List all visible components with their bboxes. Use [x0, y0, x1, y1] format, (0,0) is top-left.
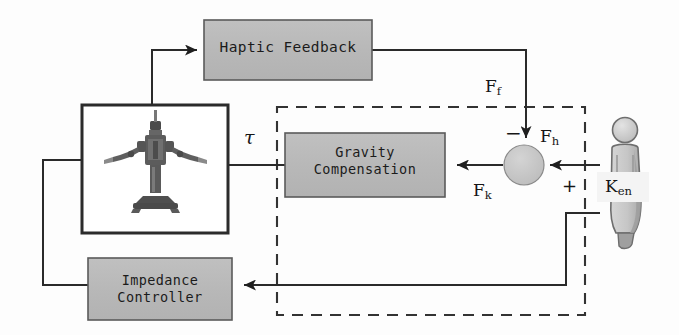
ken-sub: en	[618, 184, 632, 198]
signal-fk-base: F	[473, 180, 485, 200]
impedance-controller-label: Impedance Controller	[88, 272, 232, 307]
signal-label-tau: τ	[244, 126, 255, 148]
signal-fk-sub: k	[485, 188, 492, 202]
ken-base: K	[605, 176, 618, 196]
human-stiffness-label-ken: Ken	[605, 176, 632, 198]
wire-human-to-impedance	[244, 213, 600, 285]
summing-junction[interactable]	[504, 145, 544, 185]
summing-minus-sign: −	[505, 121, 522, 145]
signal-ff-base: F	[485, 76, 497, 96]
signal-label-fk: Fk	[473, 180, 492, 202]
signal-label-fh: Fh	[540, 126, 559, 148]
gravity-compensation-label: Gravity Compensation	[285, 144, 445, 179]
signal-fh-base: F	[540, 126, 552, 146]
signal-label-ff: Ff	[485, 76, 501, 98]
signal-ff-sub: f	[497, 84, 501, 98]
control-block-diagram: Haptic Feedback Gravity Compensation Imp…	[0, 0, 679, 335]
haptic-feedback-label: Haptic Feedback	[204, 38, 372, 57]
signal-fh-sub: h	[552, 134, 559, 148]
wire-haptic-to-summing	[372, 50, 526, 138]
summing-plus-sign: +	[562, 175, 577, 196]
